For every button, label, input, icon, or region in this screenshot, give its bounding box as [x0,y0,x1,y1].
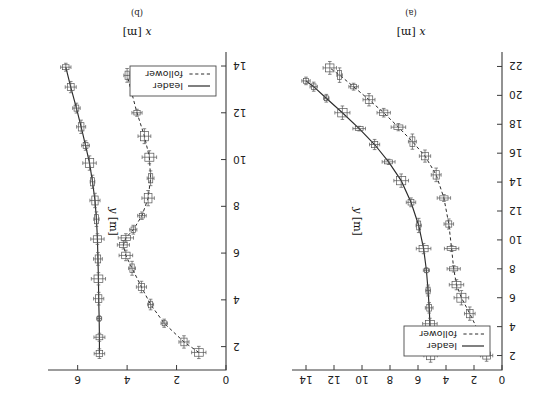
y-tick-label: 12 [509,205,522,217]
data-point [406,198,415,207]
x-tick-label: 4 [442,374,449,386]
data-point [97,316,102,321]
data-point [416,243,431,253]
series-leader [66,67,100,353]
x-tick-label: 6 [414,374,421,386]
x-tick-label: 14 [299,374,313,386]
y-tick-label: 10 [233,154,246,166]
data-point [391,124,406,131]
data-point [447,266,460,272]
data-point [423,268,429,273]
y-tick-label: 14 [509,176,523,188]
data-point [138,212,147,219]
data-point [179,336,189,348]
y-axis-var-a: y [351,207,364,213]
data-point [449,280,463,290]
data-point [118,234,133,242]
plot-area-a: 02468101214246810121416182022leaderfollo… [292,52,502,370]
data-point [91,234,104,245]
data-point [124,69,131,83]
x-axis-unit-a: [m] [397,26,416,39]
data-point [94,253,103,266]
panel-caption-b: (b) [0,8,274,18]
x-tick-label: 8 [387,374,394,386]
y-axis-title-a: y [m] [351,207,364,236]
figure-root: 02468101214246810121416182022leaderfollo… [0,0,548,406]
data-point [142,151,156,164]
y-tick-label: 4 [233,294,240,306]
data-point [382,159,395,164]
panel-caption-a: (a) [274,8,548,18]
data-point [77,120,86,133]
legend-label-leader: leader [153,81,183,92]
data-point [425,303,433,313]
y-tick-label: 18 [509,118,522,130]
chart-b: 02462468101214leaderfollower [48,52,226,370]
data-point [90,193,100,207]
x-tick-label: 0 [223,374,230,386]
data-point [138,129,151,144]
data-point [94,333,105,341]
y-tick-label: 12 [233,107,246,119]
x-tick-label: 6 [74,374,81,386]
data-point [119,250,133,261]
data-point [94,292,104,305]
y-tick-label: 16 [509,147,523,159]
data-point [82,141,90,151]
plot-area-b: 02462468101214leaderfollower [48,52,226,370]
y-axis-unit-b: [m] [107,217,120,236]
y-tick-label: 20 [509,89,522,101]
data-point [83,156,97,170]
x-tick-label: 2 [173,374,180,386]
chart-a: 02468101214246810121416182022leaderfollo… [292,52,502,370]
y-tick-label: 6 [509,292,516,304]
x-tick-label: 12 [327,374,340,386]
data-point [130,225,137,234]
y-tick-label: 8 [233,200,240,212]
data-point [444,219,454,229]
y-tick-label: 6 [233,247,240,259]
y-tick-label: 2 [509,350,516,362]
data-point [147,171,154,186]
legend-label-follower: follower [419,329,457,340]
legend: leaderfollower [130,66,216,96]
data-point [431,168,441,182]
y-tick-label: 22 [509,60,522,72]
data-point [464,307,475,320]
x-tick-label: 0 [499,374,506,386]
series-follower [123,75,198,352]
data-point [324,94,329,102]
y-tick-label: 10 [509,234,522,246]
data-point [91,273,105,285]
y-axis-var-b: y [107,207,120,213]
legend-label-leader: leader [427,341,457,352]
data-point [136,281,146,292]
data-point [408,134,416,149]
data-point [142,191,154,206]
data-point [90,175,95,188]
data-point [94,349,104,359]
data-point [437,195,450,202]
data-point [73,103,81,113]
data-point [129,261,136,275]
legend: leaderfollower [404,326,490,356]
y-tick-label: 2 [233,341,240,353]
data-point [310,82,317,91]
x-axis-var-b: x [145,26,151,39]
x-tick-label: 2 [471,374,478,386]
x-tick-label: 10 [355,374,368,386]
y-tick-label: 14 [233,60,247,72]
x-tick-label: 4 [123,374,130,386]
x-axis-title-b: x [m] [0,26,274,39]
panel-a: 02468101214246810121416182022leaderfollo… [274,0,548,406]
data-point [65,81,76,92]
data-point [61,63,71,71]
series-leader [306,81,431,356]
data-point [323,61,336,74]
data-point [161,319,167,327]
y-axis-title-b: y [m] [107,207,120,236]
x-axis-unit-b: [m] [123,26,142,39]
data-point [132,109,142,116]
data-point [377,108,390,117]
y-tick-label: 8 [509,263,516,275]
